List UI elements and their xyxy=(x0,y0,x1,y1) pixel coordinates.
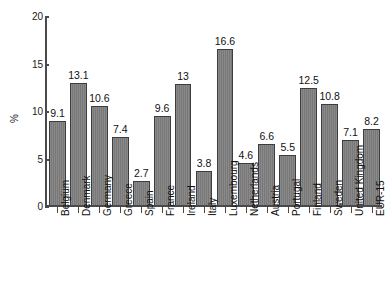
bar-value-label: 13.1 xyxy=(68,70,89,81)
x-tick-mark xyxy=(372,207,373,213)
bar-column: 2.7 xyxy=(131,17,152,207)
x-tick-label: Spain xyxy=(145,190,155,216)
x-tick-label: Finland xyxy=(313,183,323,216)
y-tick-value: 20 xyxy=(21,12,43,22)
x-tick-mark xyxy=(162,207,163,213)
x-tick-mark xyxy=(246,207,247,213)
bar-column: 3.8 xyxy=(194,17,215,207)
x-tick-label: Netherlands xyxy=(250,162,260,216)
x-tick-label: EUR-15 xyxy=(376,180,386,216)
y-tick-label: 0 xyxy=(17,202,43,212)
x-tick-mark xyxy=(120,207,121,213)
y-tick-label: 10 xyxy=(17,107,43,117)
bar-value-label: 10.6 xyxy=(89,93,110,104)
x-tick-mark xyxy=(288,207,289,213)
x-tick-label: Greece xyxy=(124,183,134,216)
y-tick-value: 5 xyxy=(21,155,43,165)
x-tick-label: Italy xyxy=(208,198,218,216)
bar-value-label: 12.5 xyxy=(298,75,319,86)
bar-value-label: 13 xyxy=(173,71,194,82)
x-tick-mark xyxy=(309,207,310,213)
x-tick-label: United Kingdom xyxy=(355,145,365,216)
x-tick-mark xyxy=(78,207,79,213)
x-tick-label: Belgium xyxy=(61,180,71,216)
bar-value-label: 6.6 xyxy=(256,131,277,142)
x-tick-label: Portugal xyxy=(292,179,302,216)
y-tick-label: 15 xyxy=(17,60,43,70)
bar-column: 10.8 xyxy=(319,17,340,207)
y-tick-value: 15 xyxy=(21,60,43,70)
bar-value-label: 7.4 xyxy=(110,124,131,135)
x-tick-mark xyxy=(225,207,226,213)
x-tick-mark xyxy=(183,207,184,213)
bar-value-label: 3.8 xyxy=(194,158,215,169)
bar-value-label: 2.7 xyxy=(131,168,152,179)
x-tick-label: Austria xyxy=(271,185,281,216)
bar-value-label: 9.6 xyxy=(152,103,173,114)
x-tick-mark xyxy=(267,207,268,213)
bar-value-label: 9.1 xyxy=(47,108,68,119)
y-tick-value: 0 xyxy=(21,202,43,212)
x-tick-mark xyxy=(351,207,352,213)
x-tick-label: Ireland xyxy=(187,185,197,216)
bar-value-label: 7.1 xyxy=(340,127,361,138)
x-tick-mark xyxy=(204,207,205,213)
y-tick-value: 10 xyxy=(21,107,43,117)
x-tick-label: Sweden xyxy=(334,180,344,216)
y-tick-label: 20 xyxy=(17,12,43,22)
x-tick-mark xyxy=(57,207,58,213)
x-tick-mark xyxy=(141,207,142,213)
plot-area: 9.113.110.67.42.79.6133.816.64.66.65.512… xyxy=(47,17,382,207)
y-tick-label: 5 xyxy=(17,155,43,165)
x-tick-label: Denmark xyxy=(82,175,92,216)
x-tick-label: France xyxy=(166,185,176,216)
x-tick-mark xyxy=(330,207,331,213)
bar-value-label: 8.2 xyxy=(361,116,382,127)
x-tick-mark xyxy=(99,207,100,213)
bar-value-label: 10.8 xyxy=(319,91,340,102)
bar-value-label: 5.5 xyxy=(277,142,298,153)
bar-value-label: 16.6 xyxy=(215,36,236,47)
x-tick-label: Germany xyxy=(103,175,113,216)
bar-column: 13 xyxy=(173,17,194,207)
x-tick-label: Luxembourg xyxy=(229,160,239,216)
bar-column: 9.6 xyxy=(152,17,173,207)
bar-column: 9.1 xyxy=(47,17,68,207)
